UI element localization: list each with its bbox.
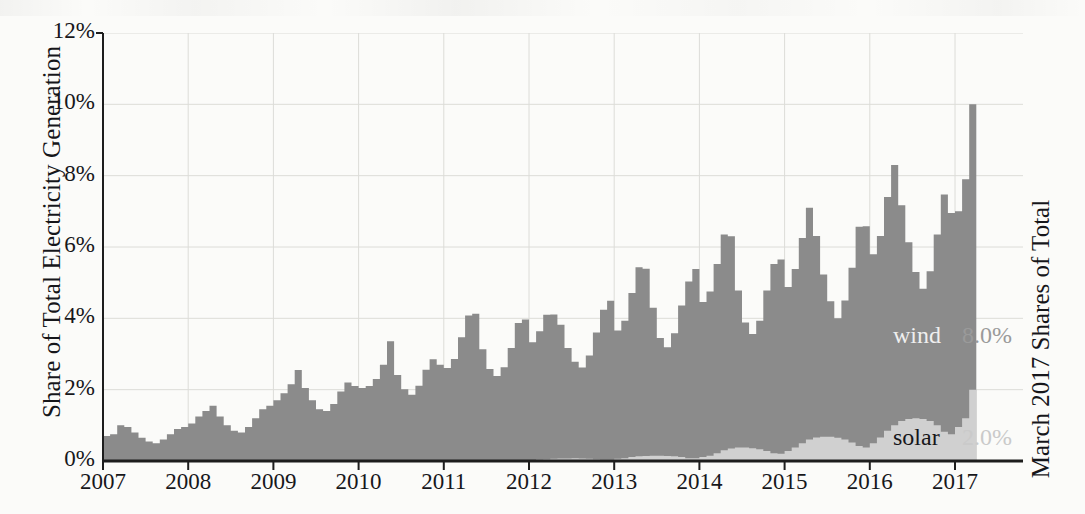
series-label-wind: wind xyxy=(893,322,941,349)
series-value-solar: 2.0% xyxy=(962,424,1012,451)
chart-page: Share of Total Electricity Generation Ma… xyxy=(0,0,1085,514)
series-value-wind: 8.0% xyxy=(962,322,1012,349)
series-label-solar: solar xyxy=(893,424,940,451)
